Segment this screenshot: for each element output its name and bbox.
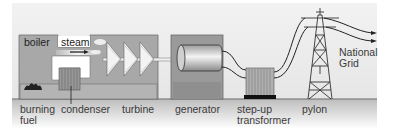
power-station-diagram: boiler steam burning fuel condenser turb… (0, 0, 393, 134)
label-steam: steam (61, 37, 90, 48)
step-up-transformer-icon (244, 68, 276, 99)
label-national-grid-line2: Grid (339, 58, 359, 69)
label-pylon: pylon (302, 104, 327, 115)
generator-icon (171, 35, 223, 99)
label-burning-fuel-line2: fuel (20, 115, 37, 126)
label-step-up-line2: transformer (237, 115, 291, 126)
label-condenser: condenser (61, 104, 110, 115)
label-generator: generator (175, 104, 220, 115)
label-boiler: boiler (24, 37, 50, 48)
label-turbine: turbine (122, 104, 154, 115)
